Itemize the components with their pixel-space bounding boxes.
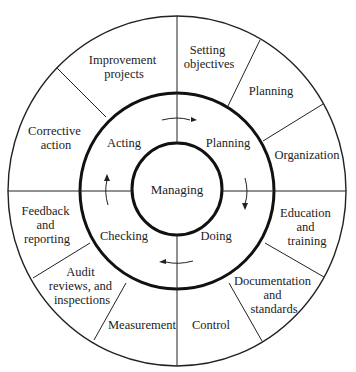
cycle-label-acting: Acting — [107, 136, 142, 150]
arrow-planning-to-doing-icon — [242, 178, 248, 210]
arrow-acting-to-planning-icon — [162, 117, 197, 122]
segment-audit-reviews-inspections: Audit reviews, and inspections — [49, 265, 115, 307]
segment-feedback-reporting: Feedback and reporting — [21, 204, 72, 246]
cycle-label-checking: Checking — [100, 229, 149, 243]
arrow-doing-to-checking-icon — [159, 259, 193, 264]
segment-improvement-projects: Improvement projects — [89, 53, 159, 81]
segment-control: Control — [192, 318, 231, 332]
arrow-checking-to-acting-icon — [104, 174, 110, 205]
segment-education-training: Education and training — [280, 206, 334, 248]
segment-corrective-action: Corrective action — [28, 124, 84, 152]
divider-planning-2 — [263, 104, 323, 141]
management-cycle-diagram: Managing Planning Doing Checking Acting … — [0, 0, 356, 372]
segment-organization: Organization — [274, 148, 340, 162]
divider-acting — [57, 68, 106, 117]
divider-doing-1 — [265, 243, 324, 277]
center-label: Managing — [151, 182, 204, 197]
segment-measurement: Measurement — [108, 318, 177, 332]
cycle-label-doing: Doing — [200, 229, 232, 243]
segment-setting-objectives: Setting objectives — [184, 43, 235, 71]
segment-planning: Planning — [249, 84, 294, 98]
cycle-label-planning: Planning — [206, 136, 251, 150]
